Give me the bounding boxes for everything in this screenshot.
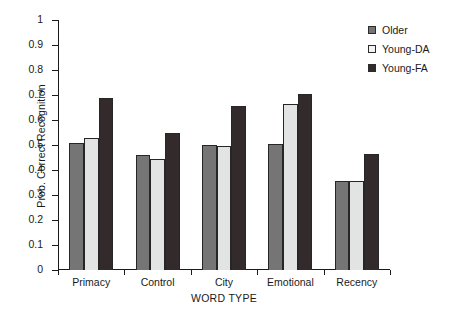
bar-recency-older [335,181,350,270]
x-axis-tick [58,270,59,275]
legend-swatch-icon [368,45,376,53]
bar-group-bars [268,20,312,270]
x-axis-tick [124,270,125,275]
bar-primacy-young-fa [99,98,114,271]
plot-area: 00.10.20.30.40.50.60.70.80.91PrimacyCont… [58,20,390,270]
bar-chart-figure: Prob. Correct Recognition 00.10.20.30.40… [0,0,461,321]
y-axis-tick: 0.8 [52,70,58,71]
bar-group: Primacy [69,20,113,270]
y-axis-tick: 0.9 [52,45,58,46]
x-axis-tick-label: Primacy [72,276,110,288]
bar-control-older [136,155,151,270]
y-axis-line [58,20,59,271]
legend-label: Older [382,24,408,36]
x-axis-tick-label: Emotional [267,276,314,288]
bar-recency-young-da [349,181,364,270]
x-axis-tick-label: Control [141,276,175,288]
bar-group-bars [69,20,113,270]
x-axis-tick-label: Recency [336,276,377,288]
bar-group: Control [136,20,180,270]
legend-swatch-icon [368,26,376,34]
y-axis-tick: 0.4 [52,170,58,171]
bar-recency-young-fa [364,154,379,270]
y-axis-tick-label: 0.4 [28,163,43,175]
legend-item-young-da[interactable]: Young-DA [368,39,429,58]
bar-primacy-older [69,143,84,271]
y-axis-tick-label: 0 [37,263,43,275]
bar-control-young-da [150,159,165,270]
legend-label: Young-DA [382,43,429,55]
x-axis-tick [257,270,258,275]
bar-emotional-older [268,144,283,270]
y-axis-tick: 0.2 [52,220,58,221]
y-axis-tick-label: 0.1 [28,238,43,250]
y-axis-tick: 0.6 [52,120,58,121]
y-axis-tick-label: 0.5 [28,138,43,150]
x-axis-tick-label: City [215,276,233,288]
y-axis-tick-label: 0.6 [28,113,43,125]
chart-legend: OlderYoung-DAYoung-FA [368,20,429,77]
bar-emotional-young-da [283,104,298,270]
bar-emotional-young-fa [298,94,313,270]
y-axis-tick: 0.5 [52,145,58,146]
y-axis-tick-label: 0.9 [28,38,43,50]
x-axis-tick [324,270,325,275]
bar-group: Emotional [268,20,312,270]
y-axis-tick-label: 1 [37,13,43,25]
y-axis-tick: 1 [52,20,58,21]
y-axis-tick-label: 0.7 [28,88,43,100]
y-axis-tick-label: 0.8 [28,63,43,75]
bar-control-young-fa [165,133,180,271]
y-axis-tick: 0.1 [52,245,58,246]
legend-label: Young-FA [382,62,428,74]
y-axis-tick-label: 0.2 [28,213,43,225]
bar-city-young-da [217,146,232,270]
x-axis-tick [390,270,391,275]
y-axis-tick: 0.3 [52,195,58,196]
x-axis-title: WORD TYPE [58,292,390,304]
bar-group-bars [202,20,246,270]
legend-swatch-icon [368,64,376,72]
legend-item-young-fa[interactable]: Young-FA [368,58,429,77]
y-axis-tick-label: 0.3 [28,188,43,200]
y-axis-tick: 0.7 [52,95,58,96]
x-axis-tick [191,270,192,275]
bar-city-young-fa [231,106,246,270]
legend-item-older[interactable]: Older [368,20,429,39]
bar-group: City [202,20,246,270]
bar-primacy-young-da [84,138,99,271]
bar-city-older [202,145,217,270]
bar-group-bars [136,20,180,270]
